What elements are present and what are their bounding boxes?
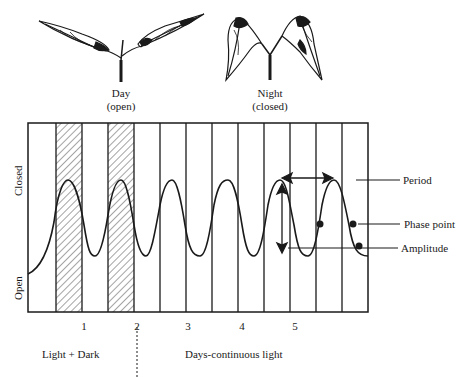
footer-light-dark: Light + Dark [42,348,100,361]
x-tick-5: 5 [292,320,298,333]
label-phase-point: Phase point [404,218,455,231]
night-label: Night (closed) [252,87,287,113]
period-arrow [282,173,333,183]
x-tick-2: 2 [134,320,140,333]
grid-lines [56,123,342,312]
y-label-closed: Closed [12,165,24,196]
day-title: Day [107,87,136,100]
label-period: Period [403,174,432,187]
day-state: (open) [107,100,136,113]
x-tick-1: 1 [81,320,87,333]
phase-point-2 [350,221,357,228]
label-amplitude: Amplitude [401,242,448,255]
amplitude-arrow [277,184,287,253]
dark-period-1 [56,123,82,312]
day-plant-icon [39,14,204,82]
day-label: Day (open) [107,87,136,113]
x-tick-4: 4 [239,320,245,333]
night-state: (closed) [252,100,287,113]
phase-points [317,221,363,250]
y-label-open: Open [12,276,24,300]
x-tick-3: 3 [185,320,191,333]
leader-lines [288,180,400,248]
night-plant-icon [226,16,322,80]
dark-period-2 [108,123,134,312]
circadian-diagram [0,0,465,378]
phase-point-1 [317,221,324,228]
night-title: Night [252,87,287,100]
footer-continuous-light: Days-continuous light [185,348,282,361]
phase-point-3 [356,243,363,250]
